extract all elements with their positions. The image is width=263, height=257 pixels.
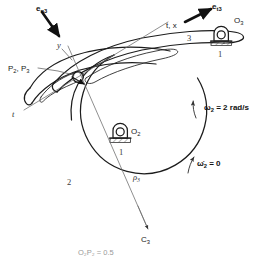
omega2-dot-curved-arrow [188,157,194,173]
figure-caption: O₂P₂ = 0.5 [78,248,114,257]
pivot-O3 [211,26,233,45]
label-link-3: 3 [187,33,191,43]
label-e-n3: en3 [36,4,48,14]
label-O3: O3 [234,16,243,26]
rho3-arrow [138,206,148,229]
label-omega2: ω2 = 2 rad/s [204,103,249,113]
label-y-axis: y [56,40,61,50]
e-n3-vector-arrow [42,12,59,36]
label-link-1-right: 1 [218,49,222,59]
label-O2: O2 [131,127,140,137]
label-link-1-left: 1 [119,147,123,157]
tangent-axis-line [24,22,168,110]
label-C3: C3 [141,235,150,245]
label-link-2: 2 [67,177,71,187]
link-2-cam-disk [71,55,207,174]
figure-root: en3 et3 y t, x t P2, P3 3 O3 1 O2 1 2 ρ3… [0,0,263,257]
kinematics-diagram: en3 et3 y t, x t P2, P3 3 O3 1 O2 1 2 ρ3… [0,0,263,257]
label-e-t3: et3 [212,2,222,12]
omega2-curved-arrow [193,101,196,118]
label-omega2-dot: ω̇2 = 0 [197,159,221,169]
e-t3-vector-arrow [185,9,211,22]
label-P2-P3: P2, P3 [8,64,30,74]
label-t-x-axis: t, x [166,21,177,30]
label-t-axis: t [12,109,15,119]
pivot-O2 [110,123,132,142]
normal-axis-line [68,46,147,227]
